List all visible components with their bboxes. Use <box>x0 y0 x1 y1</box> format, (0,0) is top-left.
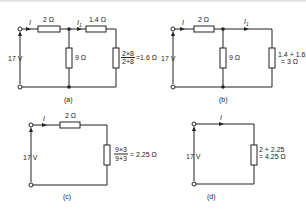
terminal-icon <box>29 123 33 127</box>
resistor-2ohm <box>38 26 60 32</box>
panel-d: I 17 V 2 + 2.25 = 4.25 Ω (d) <box>186 114 286 201</box>
current-arrow-icon <box>77 27 82 31</box>
terminal-icon <box>171 27 175 31</box>
current-arrow-icon <box>42 123 47 127</box>
load-expression: 2 + 2.25 <box>259 146 285 153</box>
result-label: =1.6 Ω <box>136 54 157 61</box>
voltage-arrow-icon <box>18 31 22 36</box>
panel-caption: (a) <box>64 96 73 104</box>
fraction-denominator: 2+8 <box>122 58 134 65</box>
source-voltage-label: 17 V <box>186 153 201 160</box>
panel-caption: (d) <box>207 193 216 201</box>
panel-c: I 2 Ω 17 V 9×3 9+3 = 2.25 Ω (c) <box>23 112 157 201</box>
resistor-9ohm <box>220 48 226 68</box>
panel-caption: (b) <box>219 96 228 104</box>
current-arrow-icon <box>219 122 224 126</box>
voltage-arrow-icon <box>192 126 196 131</box>
resistor-1.4ohm <box>86 26 106 32</box>
resistor-total-equivalent <box>251 145 257 165</box>
current-arrow-icon <box>26 27 31 31</box>
panel-b: I 2 Ω I1 17 V 9 Ω 1.4 + 1.6 = 3 Ω (b) <box>161 16 306 104</box>
terminal-icon <box>18 27 22 31</box>
voltage-arrow-icon <box>29 127 33 132</box>
junction-dot-icon <box>221 85 225 89</box>
fraction-denominator: 9+3 <box>115 155 127 162</box>
current-arrow-icon <box>244 27 249 31</box>
resistor-label: 1.4 Ω <box>89 16 106 23</box>
source-voltage-label: 17 V <box>23 154 38 161</box>
branch-current-label: I1 <box>77 19 82 28</box>
fraction-numerator: 9×3 <box>115 146 127 153</box>
current-label: I <box>43 115 45 122</box>
load-expression: 1.4 + 1.6 <box>278 51 306 58</box>
fraction-numerator: 2×8 <box>122 50 134 57</box>
current-label: I <box>29 19 31 26</box>
panel-caption: (c) <box>63 193 71 201</box>
resistor-label: 9 Ω <box>229 54 240 61</box>
current-label: I <box>182 19 184 26</box>
source-voltage-label: 17 V <box>8 55 23 62</box>
panel-a: I 2 Ω I1 1.4 Ω 17 V 9 Ω 2×8 2+8 =1.6 Ω (… <box>8 16 157 104</box>
current-label: I <box>220 114 222 121</box>
junction-dot-icon <box>221 27 225 31</box>
resistor-equivalent <box>104 145 110 165</box>
resistor-2ohm <box>60 122 80 128</box>
terminal-icon <box>171 85 175 89</box>
resistor-label: 2 Ω <box>65 112 76 119</box>
branch-current-label: I1 <box>244 18 249 27</box>
result-label: = 2.25 Ω <box>130 151 157 158</box>
current-arrow-icon <box>180 27 185 31</box>
resistor-9ohm <box>66 48 72 68</box>
voltage-arrow-icon <box>171 31 175 36</box>
circuit-diagram: I 2 Ω I1 1.4 Ω 17 V 9 Ω 2×8 2+8 =1.6 Ω (… <box>0 0 306 212</box>
load-result: = 4.25 Ω <box>259 153 286 160</box>
resistor-2ohm <box>194 26 214 32</box>
junction-dot-icon <box>67 85 71 89</box>
terminal-icon <box>192 182 196 186</box>
resistor-label: 9 Ω <box>75 54 86 61</box>
resistor-parallel-load <box>113 48 119 68</box>
load-result: = 3 Ω <box>281 58 298 65</box>
source-voltage-label: 17 V <box>161 55 176 62</box>
resistor-label: 2 Ω <box>43 16 54 23</box>
resistor-combined-load <box>269 48 275 68</box>
resistor-label: 2 Ω <box>198 16 209 23</box>
terminal-icon <box>29 183 33 187</box>
terminal-icon <box>18 85 22 89</box>
junction-dot-icon <box>67 27 71 31</box>
terminal-icon <box>192 122 196 126</box>
